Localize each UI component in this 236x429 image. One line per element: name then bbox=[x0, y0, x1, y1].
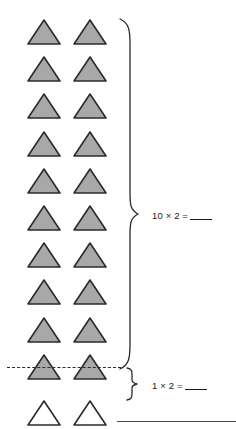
equation-filled-group: 10 × 2 = bbox=[152, 211, 212, 221]
triangle-row bbox=[0, 167, 120, 197]
triangle-icon bbox=[72, 92, 108, 120]
bottom-horizontal-rule bbox=[117, 421, 236, 422]
triangle-icon bbox=[72, 399, 108, 427]
triangle-icon bbox=[72, 316, 108, 344]
triangle-icon bbox=[72, 204, 108, 232]
equation-unfilled-answer-blank[interactable] bbox=[185, 389, 207, 390]
triangle-row bbox=[0, 18, 120, 48]
triangle-icon bbox=[72, 167, 108, 195]
large-brace bbox=[118, 18, 140, 370]
triangle-row bbox=[0, 55, 120, 85]
group-separator-dashed-line bbox=[7, 367, 121, 368]
triangle-row bbox=[0, 130, 120, 160]
triangle-icon bbox=[26, 167, 62, 195]
triangle-icon bbox=[26, 204, 62, 232]
triangle-row bbox=[0, 204, 120, 234]
triangle-icon bbox=[72, 18, 108, 46]
equation-unfilled-text: 1 × 2 = bbox=[152, 380, 183, 391]
triangle-icon bbox=[26, 316, 62, 344]
triangle-row bbox=[0, 399, 120, 429]
triangle-icon bbox=[26, 278, 62, 306]
equation-unfilled-group: 1 × 2 = bbox=[152, 381, 207, 391]
triangle-icon bbox=[72, 130, 108, 158]
worksheet-canvas: 10 × 2 = 1 × 2 = bbox=[0, 0, 236, 429]
triangle-row bbox=[0, 316, 120, 346]
triangle-icon bbox=[26, 399, 62, 427]
triangle-icon bbox=[72, 55, 108, 83]
triangle-icon bbox=[26, 18, 62, 46]
triangle-icon bbox=[72, 278, 108, 306]
triangle-icon bbox=[26, 55, 62, 83]
equation-filled-answer-blank[interactable] bbox=[190, 219, 212, 220]
triangle-row bbox=[0, 241, 120, 271]
small-brace bbox=[124, 367, 140, 401]
triangle-row bbox=[0, 278, 120, 308]
triangle-row bbox=[0, 92, 120, 122]
triangle-icon bbox=[26, 92, 62, 120]
triangle-icon bbox=[26, 130, 62, 158]
triangle-icon bbox=[26, 241, 62, 269]
triangle-icon bbox=[72, 241, 108, 269]
equation-filled-text: 10 × 2 = bbox=[152, 210, 188, 221]
